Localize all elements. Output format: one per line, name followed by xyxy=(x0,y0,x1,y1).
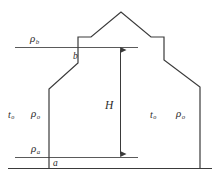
rho-left-subscript: o xyxy=(37,113,40,120)
label-rho-left: ρo xyxy=(31,108,40,120)
rho-a-symbol: ρ xyxy=(31,142,36,154)
point-a-text: a xyxy=(53,158,58,168)
label-rho-b: ρb xyxy=(30,33,39,45)
label-point-a: a xyxy=(53,159,58,169)
rho-right-subscript: o xyxy=(182,113,185,120)
label-t-left: to xyxy=(8,110,14,121)
height-H-text: H xyxy=(105,99,113,111)
physics-diagram-figure: ρb b to ρo to ρo H ρa a xyxy=(0,0,217,188)
rho-a-subscript: a xyxy=(37,148,40,155)
diagram-canvas xyxy=(0,0,217,188)
point-b-text: b xyxy=(73,51,78,61)
rho-b-subscript: b xyxy=(36,38,39,45)
label-height-H: H xyxy=(105,100,113,112)
rho-b-symbol: ρ xyxy=(30,32,35,44)
label-point-b: b xyxy=(73,52,78,62)
label-rho-right: ρo xyxy=(176,108,185,120)
t-right-subscript: o xyxy=(153,113,156,120)
rho-left-symbol: ρ xyxy=(31,107,36,119)
label-rho-a: ρa xyxy=(31,143,40,155)
t-left-subscript: o xyxy=(11,113,14,120)
building-outline xyxy=(49,12,200,168)
label-t-right: to xyxy=(150,110,156,121)
rho-right-symbol: ρ xyxy=(176,107,181,119)
